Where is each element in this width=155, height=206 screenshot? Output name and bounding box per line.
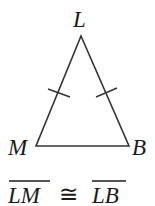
segment-lm: LM bbox=[7, 183, 42, 206]
triangle-diagram: L M B LM ≅ LB bbox=[0, 0, 155, 206]
vertex-label-b: B bbox=[132, 135, 146, 160]
congruent-symbol: ≅ bbox=[59, 182, 78, 206]
segment-lb: LB bbox=[91, 183, 119, 206]
triangle-lmb bbox=[36, 36, 129, 146]
vertex-label-l: L bbox=[72, 7, 86, 32]
vertex-label-m: M bbox=[7, 135, 29, 160]
